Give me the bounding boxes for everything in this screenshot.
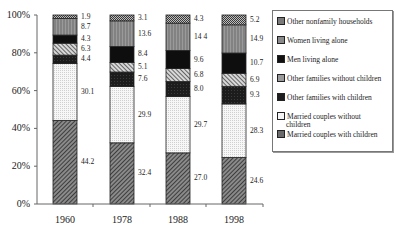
segment-value-label: 13.6: [138, 30, 151, 38]
segment-value-label: 1.9: [81, 13, 90, 21]
bar-segment: [166, 15, 190, 23]
legend-item-other-nonfamily: Other nonfamily households: [277, 17, 372, 26]
checker-swatch-icon: [277, 17, 285, 25]
segment-value-label: 6.3: [81, 45, 90, 53]
bar-segment: [222, 15, 246, 25]
segment-value-label: 30.1: [81, 88, 94, 96]
bar-segment: [166, 81, 190, 96]
bar-segment: [222, 157, 246, 204]
bar-segment: [53, 120, 77, 204]
legend-item-married-with: Married couples with children: [277, 130, 378, 139]
bar-segment: [53, 63, 77, 120]
x-tick-label: 1998: [214, 214, 254, 225]
segment-value-label: 4.4: [81, 55, 90, 63]
segment-value-label: 8.4: [138, 50, 147, 58]
bar-segment: [110, 15, 134, 21]
bar-segment: [110, 86, 134, 142]
bar-segment: [166, 69, 190, 82]
segment-value-label: 14.9: [250, 35, 263, 43]
stacked-bar-chart: 0%20%40%60%80%100% 1960197819881998 44.2…: [0, 0, 396, 236]
bar-segment: [166, 23, 190, 50]
segment-value-label: 6.9: [250, 76, 259, 84]
bar-segment: [222, 104, 246, 158]
legend-item-other-families-with: Other families with children: [277, 93, 372, 102]
legend-item-men-alone: Men living alone: [277, 55, 338, 64]
segment-value-label: 29.9: [138, 111, 151, 119]
bar-segment: [166, 97, 190, 153]
light-swatch-icon: [277, 112, 285, 120]
legend-item-women-alone: Women living alone: [277, 36, 348, 45]
bar-segment: [166, 153, 190, 204]
segment-value-label: 9.6: [194, 56, 203, 64]
dark-swatch-icon: [277, 93, 285, 101]
legend: Other nonfamily households Women living …: [272, 10, 393, 152]
segment-value-label: 24.6: [250, 177, 263, 185]
bar-segment: [53, 19, 77, 35]
y-tick-label: 80%: [0, 48, 30, 58]
segment-value-label: 28.3: [250, 127, 263, 135]
segment-value-label: 7.6: [138, 75, 147, 83]
segment-value-label: 4.3: [194, 15, 203, 23]
bar-segment: [53, 43, 77, 55]
bar-segment: [110, 21, 134, 47]
bar-segment: [110, 72, 134, 86]
segment-value-label: 29.7: [194, 121, 207, 129]
legend-item-married-without-cont: children: [286, 121, 311, 129]
segment-value-label: 32.4: [138, 169, 151, 177]
hatch-swatch-icon: [277, 130, 285, 138]
bar-segment: [222, 25, 246, 53]
y-tick-label: 20%: [0, 161, 30, 171]
x-tick-label: 1960: [45, 214, 85, 225]
segment-value-label: 8.0: [194, 85, 203, 93]
x-tick-label: 1988: [158, 214, 198, 225]
bar-segment: [110, 47, 134, 63]
diag-swatch-icon: [277, 74, 285, 82]
segment-value-label: 6.8: [194, 71, 203, 79]
bar-segment: [53, 55, 77, 63]
segment-value-label: 5.2: [250, 16, 259, 24]
segment-value-label: 4.3: [81, 35, 90, 43]
solid-swatch-icon: [277, 55, 285, 63]
legend-item-other-families-without: Other families without children: [277, 74, 381, 83]
segment-value-label: 44.2: [81, 158, 94, 166]
segment-value-label: 9.3: [250, 91, 259, 99]
bar-segment: [110, 62, 134, 72]
segment-value-label: 27.0: [194, 174, 207, 182]
bar-segment: [53, 15, 77, 19]
segment-value-label: 8.7: [81, 23, 90, 31]
bar-segment: [222, 73, 246, 86]
bar-segment: [110, 143, 134, 204]
bar-segment: [222, 53, 246, 73]
segment-value-label: 10.7: [250, 59, 263, 67]
y-tick-label: 40%: [0, 123, 30, 133]
vertical-swatch-icon: [277, 36, 285, 44]
bar-segment: [166, 50, 190, 68]
bar-segment: [222, 86, 246, 104]
segment-value-label: 3.1: [138, 14, 147, 22]
x-tick-label: 1978: [102, 214, 142, 225]
segment-value-label: 5.1: [138, 63, 147, 71]
y-tick-label: 0%: [0, 199, 30, 209]
segment-value-label: 14 4: [194, 33, 207, 41]
y-tick-label: 60%: [0, 86, 30, 96]
bar-segment: [53, 35, 77, 43]
y-tick-label: 100%: [0, 10, 30, 20]
